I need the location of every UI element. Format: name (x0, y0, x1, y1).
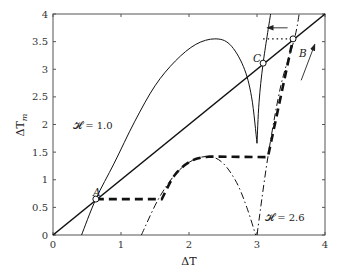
x-tick-label: 3 (254, 239, 260, 250)
point-label-a: A (92, 186, 101, 198)
y-axis-label: ΔTm (14, 113, 29, 136)
series-line-4 (257, 14, 299, 235)
series-line-2 (257, 14, 271, 143)
y-tick-label: 2.5 (32, 91, 48, 102)
y-tick-label: 0.5 (32, 202, 48, 213)
y-tick-label: 4 (42, 9, 48, 20)
y-tick-label: 1 (42, 174, 48, 185)
x-tick-label: 4 (322, 239, 328, 250)
point-label-b: B (298, 47, 307, 59)
annotation-h-2: 𝓗 = 2.6 (265, 212, 305, 223)
x-tick-label: 1 (118, 239, 124, 250)
y-tick-label: 1.5 (32, 147, 48, 158)
point-label-c: C (253, 52, 261, 64)
point-marker-b (290, 36, 296, 42)
x-axis-label: ΔT (181, 255, 197, 268)
y-axis-label-main: ΔT (14, 120, 27, 136)
svg-text:ΔTm: ΔTm (14, 113, 29, 136)
annotation-h-1: 𝓗 = 1.0 (73, 120, 113, 131)
y-tick-label: 2 (42, 119, 48, 130)
x-tick-label: 2 (186, 239, 192, 250)
chart: 0123400.511.522.533.54 ΔT ΔTm A C B 𝓗 = … (0, 0, 342, 272)
y-tick-label: 3.5 (32, 36, 48, 47)
series-line-1 (82, 39, 257, 235)
x-tick-label: 0 (50, 239, 56, 250)
y-tick-label: 3 (42, 64, 48, 75)
annotation-arrows (267, 28, 315, 80)
series-line-3 (141, 156, 255, 235)
y-axis-label-sub: m (20, 113, 29, 121)
y-tick-label: 0 (42, 230, 48, 241)
